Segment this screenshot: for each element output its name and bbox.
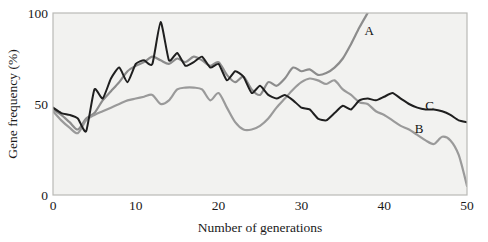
x-axis-label: Number of generations (198, 220, 322, 235)
series-label-a: A (365, 23, 375, 38)
plot-area-background (53, 13, 467, 195)
x-tick-label: 50 (460, 198, 474, 213)
x-tick-label: 10 (129, 198, 143, 213)
x-tick-label: 30 (295, 198, 309, 213)
y-tick-label: 50 (35, 97, 49, 112)
x-tick-label: 20 (212, 198, 226, 213)
x-tick-label: 0 (50, 198, 57, 213)
gene-frequency-chart: 01020304050 050100 ABC Number of generat… (0, 0, 488, 242)
x-tick-label: 40 (377, 198, 391, 213)
series-label-c: C (425, 98, 434, 113)
chart-canvas: 01020304050 050100 ABC Number of generat… (0, 0, 488, 242)
y-axis-label: Gene frequency (%) (5, 49, 20, 158)
series-label-b: B (415, 121, 424, 136)
y-tick-label: 100 (28, 6, 49, 21)
y-tick-label: 0 (41, 188, 48, 203)
